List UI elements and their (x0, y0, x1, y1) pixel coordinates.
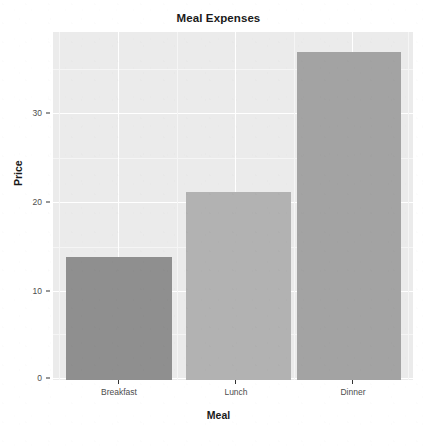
chart-title: Meal Expenses (0, 12, 437, 24)
x-tick-label-lunch: Lunch (224, 387, 247, 397)
x-axis-title: Meal (0, 409, 437, 421)
x-tick-mark-lunch (235, 380, 236, 384)
bar-chart: Meal Expenses 30 20 10 0 Price (0, 0, 437, 448)
y-tick-label-0: 0 (16, 373, 42, 383)
x-axis: Breakfast Lunch Dinner (53, 380, 413, 410)
bar-breakfast[interactable] (66, 257, 172, 380)
bar-dinner[interactable] (297, 52, 401, 380)
x-tick-mark-dinner (352, 380, 353, 384)
y-tick-label-20: 20 (16, 197, 42, 207)
x-tick-label-dinner: Dinner (340, 387, 365, 397)
y-tick-label-30: 30 (16, 108, 42, 118)
gridline-x-minor-left (59, 32, 60, 380)
y-tick-label-10: 10 (16, 286, 42, 296)
gridline-x-minor-right (408, 32, 409, 380)
y-tick-mark-30 (46, 113, 50, 114)
y-axis-title: Price (12, 160, 24, 186)
x-tick-mark-breakfast (118, 380, 119, 384)
x-tick-label-breakfast: Breakfast (101, 387, 137, 397)
y-tick-mark-0 (46, 378, 50, 379)
gridline-x-minor-mid1 (177, 32, 178, 380)
y-axis: 30 20 10 0 (0, 32, 53, 380)
plot-panel (53, 32, 413, 380)
y-tick-mark-20 (46, 202, 50, 203)
gridline-x-minor-mid2 (294, 32, 295, 380)
bar-lunch[interactable] (186, 192, 291, 380)
y-tick-mark-10 (46, 291, 50, 292)
